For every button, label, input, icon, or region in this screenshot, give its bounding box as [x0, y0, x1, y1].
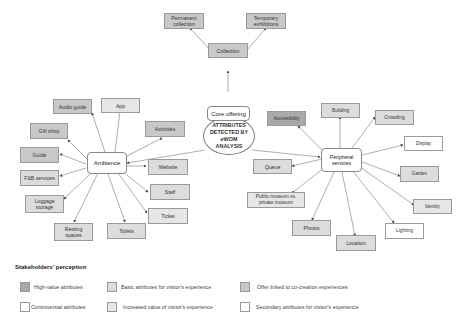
hub-core-offering: Core offering [207, 106, 250, 121]
center-label: ATTRIBUTES DETECTED BY eWOM ANALYSIS [208, 122, 250, 150]
node-resting-spaces: Resting spaces [54, 223, 93, 241]
node-lighting: Lighting [385, 223, 424, 239]
legend-controversial: Controversial attributes [20, 302, 85, 312]
hub-ambience: Ambience [87, 152, 127, 174]
node-permanent-collection: Permanent collection [164, 13, 204, 29]
node-activities: Activities [145, 121, 185, 137]
node-staff: Staff [150, 184, 190, 200]
node-garden: Garden [400, 166, 439, 182]
legend-basic: Basic attributes for visitor's experienc… [107, 282, 211, 292]
node-luggage-storage: Luggage storage [25, 195, 64, 213]
center-node: ATTRIBUTES DETECTED BY eWOM ANALYSIS [203, 117, 255, 155]
node-display: Display [404, 136, 443, 151]
swatch-icon [107, 282, 117, 292]
node-identity: Identity [413, 199, 452, 214]
node-website: Website [148, 159, 188, 175]
hub-peripheral-services: Peripheral services [321, 148, 362, 172]
legend-co-creation: Offer linked to co-creation experiences [240, 282, 348, 292]
node-fb-services: F&B services [20, 170, 59, 186]
node-guide: Guide [20, 147, 59, 163]
node-app: App [101, 98, 140, 113]
node-audio-guide: Audio guide [53, 99, 92, 114]
legend-high-value: High-value attributes [20, 282, 83, 292]
node-building: Building [321, 103, 360, 118]
legend-title: Stakeholders' perception [15, 264, 86, 270]
legend-increased-value: Increased value of visitor's experience [107, 302, 213, 312]
node-gift-shop: Gift shop [30, 123, 68, 139]
node-toilets: Toilets [107, 223, 146, 239]
node-accessibility: Accessibility [267, 111, 306, 126]
node-photos: Photos [292, 220, 331, 236]
node-location: Location [336, 235, 376, 251]
node-ticket: Ticket [148, 208, 188, 224]
node-queue: Queue [253, 159, 292, 174]
node-public-private-museum: Public museum vs. private museum [247, 192, 305, 208]
legend-secondary: Secondary attributes for visitor's exper… [240, 302, 359, 312]
swatch-icon [107, 302, 117, 312]
node-crowding: Crowding [375, 110, 414, 125]
swatch-icon [240, 302, 250, 312]
swatch-icon [20, 282, 30, 292]
swatch-icon [240, 282, 250, 292]
swatch-icon [20, 302, 30, 312]
node-temporary-exhibitions: Temporary exhibitions [246, 13, 286, 29]
node-collection: Collection [208, 43, 248, 58]
